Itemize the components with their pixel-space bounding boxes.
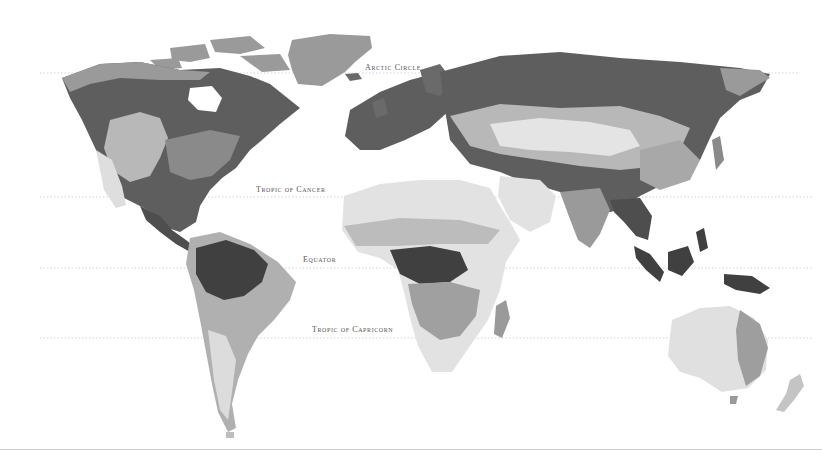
tropic-of-capricorn-label: Tropic of Capricorn bbox=[312, 325, 393, 334]
maritime-southeast-asia bbox=[634, 228, 770, 294]
iceland bbox=[345, 73, 362, 81]
arctic-circle-label: Arctic Circle bbox=[365, 63, 421, 72]
madagascar bbox=[494, 300, 510, 338]
new-zealand bbox=[776, 374, 804, 412]
southeast-asia bbox=[610, 198, 652, 240]
bottom-divider bbox=[0, 449, 822, 450]
arctic-islands bbox=[150, 36, 290, 72]
tasmania bbox=[730, 396, 738, 404]
india bbox=[560, 188, 610, 248]
tropic-of-cancer-label: Tropic of Cancer bbox=[256, 185, 326, 194]
antarctic-fragment bbox=[226, 432, 234, 438]
equator-label: Equator bbox=[303, 255, 336, 264]
japan bbox=[712, 136, 724, 170]
